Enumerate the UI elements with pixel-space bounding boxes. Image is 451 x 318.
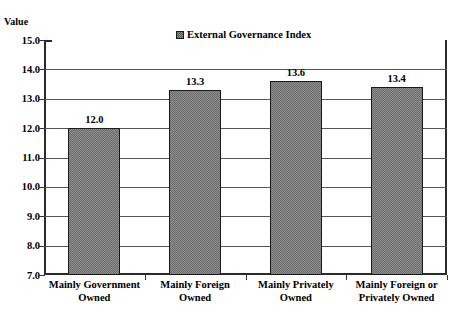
plot-area: 12.013.313.613.4 xyxy=(44,40,447,275)
y-axis-tick xyxy=(39,158,45,159)
x-axis-category-label-line: Mainly Privately xyxy=(246,279,347,292)
x-axis-category-labels: Mainly GovernmentOwnedMainly ForeignOwne… xyxy=(44,279,447,317)
x-axis-category-label: Mainly PrivatelyOwned xyxy=(246,279,347,304)
y-axis-tick-label: 15.0 xyxy=(22,35,40,46)
x-axis-category-label-line: Privately Owned xyxy=(346,292,447,305)
bar-value-label: 13.6 xyxy=(266,67,326,78)
y-axis-tick xyxy=(39,246,45,247)
y-axis-tick-label: 13.0 xyxy=(22,93,40,104)
bar xyxy=(270,81,322,275)
bar xyxy=(371,87,423,275)
y-axis-tick xyxy=(39,40,45,41)
x-axis-category-label: Mainly ForeignOwned xyxy=(145,279,246,304)
x-axis-category-label-line: Owned xyxy=(44,292,145,305)
bar-value-label: 13.3 xyxy=(165,76,225,87)
y-axis-tick xyxy=(39,128,45,129)
y-axis-tick-label: 12.0 xyxy=(22,123,40,134)
x-axis-category-label-line: Mainly Foreign xyxy=(145,279,246,292)
bar xyxy=(169,90,221,275)
legend-item-label: External Governance Index xyxy=(187,29,311,40)
y-axis-tick xyxy=(39,275,45,276)
bar xyxy=(68,128,120,275)
x-axis-category-label: Mainly GovernmentOwned xyxy=(44,279,145,304)
y-axis-tick-label: 14.0 xyxy=(22,64,40,75)
y-axis-tick xyxy=(39,99,45,100)
y-axis-tick-labels: 15.014.013.012.011.010.09.08.07.0 xyxy=(0,40,40,275)
y-axis-tick-label: 11.0 xyxy=(22,152,40,163)
y-axis-tick xyxy=(39,187,45,188)
x-axis-category-label-line: Owned xyxy=(145,292,246,305)
x-axis-category-label-line: Owned xyxy=(246,292,347,305)
x-axis-category-label: Mainly Foreign orPrivately Owned xyxy=(346,279,447,304)
bar-value-label: 13.4 xyxy=(367,73,427,84)
hatched-square-icon xyxy=(176,31,184,39)
y-axis-tick xyxy=(39,69,45,70)
gridline xyxy=(44,69,447,70)
y-axis-tick xyxy=(39,216,45,217)
chart-legend: External Governance Index xyxy=(176,29,311,40)
y-axis-tick-label: 10.0 xyxy=(22,181,40,192)
x-axis-tick xyxy=(447,275,448,280)
bar-chart: Value External Governance Index 15.014.0… xyxy=(0,0,451,318)
x-axis-category-label-line: Mainly Government xyxy=(44,279,145,292)
x-axis-category-label-line: Mainly Foreign or xyxy=(346,279,447,292)
y-axis-title: Value xyxy=(4,16,28,27)
bar-value-label: 12.0 xyxy=(64,114,124,125)
